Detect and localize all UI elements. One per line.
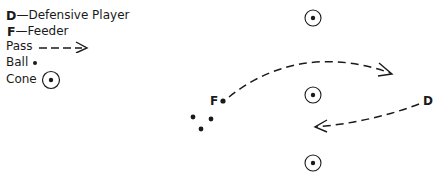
ball-icon xyxy=(191,115,196,120)
ball-icon xyxy=(199,127,204,132)
ball-icon xyxy=(209,117,214,122)
cone-icon xyxy=(305,155,321,171)
pass-arrow-defender-icon xyxy=(315,104,419,132)
pass-arrow-feeder-icon xyxy=(229,62,392,97)
drill-diagram xyxy=(0,0,448,177)
cone-icon xyxy=(305,87,321,103)
defender-label: D xyxy=(423,94,433,108)
cone-icon xyxy=(305,10,321,26)
feeder-marker-icon xyxy=(220,98,225,103)
feeder-label: F xyxy=(210,94,218,108)
